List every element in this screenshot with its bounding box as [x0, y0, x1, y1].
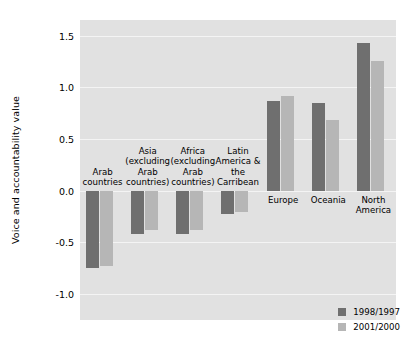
bar: [145, 191, 158, 230]
legend-item[interactable]: 1998/1997: [338, 307, 400, 317]
bar: [235, 191, 248, 213]
y-axis-tick-label: 0.5: [59, 133, 74, 144]
bar: [326, 120, 339, 190]
y-axis-tick-labels: 1.51.00.50.0-0.5-1.0: [0, 0, 80, 340]
x-axis-category-label: Latin America & the Carribean: [211, 146, 264, 188]
bar: [131, 191, 144, 234]
bar: [357, 43, 370, 191]
legend-swatch-icon: [338, 308, 346, 316]
y-axis-tick-label: -0.5: [55, 237, 74, 248]
bar-group: [351, 20, 396, 320]
bar: [312, 103, 325, 191]
bar: [190, 191, 203, 230]
bar: [371, 61, 384, 190]
bar-chart: Voice and accountability value 1.51.00.5…: [0, 0, 414, 340]
y-axis-tick-label: -1.0: [55, 289, 74, 300]
bar: [176, 191, 189, 234]
bar: [267, 101, 280, 191]
legend: 1998/19972001/2000: [338, 307, 400, 332]
bar: [100, 191, 113, 267]
legend-swatch-icon: [338, 323, 346, 331]
y-axis-tick-label: 1.0: [59, 82, 74, 93]
bar-group: [261, 20, 306, 320]
bar: [221, 191, 234, 215]
x-axis-category-label: North America: [347, 195, 400, 216]
y-axis-tick-label: 1.5: [59, 30, 74, 41]
legend-item-label: 1998/1997: [353, 307, 400, 317]
legend-item-label: 2001/2000: [353, 322, 400, 332]
legend-item[interactable]: 2001/2000: [338, 322, 400, 332]
y-axis-tick-label: 0.0: [59, 185, 74, 196]
bar-group: [306, 20, 351, 320]
bar: [281, 96, 294, 191]
bar: [86, 191, 99, 269]
